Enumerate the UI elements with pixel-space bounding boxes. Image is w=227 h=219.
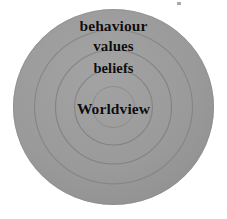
label-worldview: Worldview	[0, 100, 227, 118]
scan-speck-icon	[177, 2, 181, 5]
cutoff-caption-fragment	[0, 212, 227, 219]
label-beliefs: beliefs	[0, 60, 227, 77]
diagram-canvas: behaviour values beliefs Worldview	[0, 0, 227, 219]
label-values: values	[0, 38, 227, 55]
label-behaviour: behaviour	[0, 17, 227, 35]
